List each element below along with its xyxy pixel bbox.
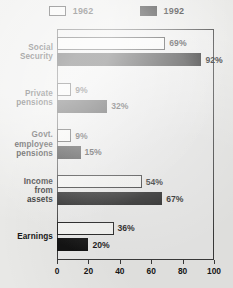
bar-rect [57, 238, 88, 251]
bar-1962: 9% [57, 83, 88, 96]
legend-label: 1992 [164, 6, 185, 16]
bars-track: 9%32% [57, 75, 214, 121]
chart-legend: 19621992 [0, 6, 233, 16]
category-label-line: assets [0, 195, 53, 204]
bar-value-label: 9% [75, 85, 87, 95]
legend-label: 1962 [73, 6, 94, 16]
bar-value-label: 15% [85, 147, 102, 157]
bar-1992: 20% [57, 238, 110, 251]
category-label-line: Earnings [0, 232, 53, 241]
bar-rect [57, 100, 107, 113]
bar-group-earnings: Earnings36%20% [0, 214, 233, 260]
category-label: Earnings [0, 232, 57, 241]
bar-1962: 36% [57, 222, 135, 235]
legend-entry-1962: 1962 [49, 6, 94, 16]
category-label: Govt.employeepensions [0, 130, 57, 158]
bar-rect [57, 192, 162, 205]
bar-value-label: 69% [169, 38, 186, 48]
x-axis-tick [214, 260, 215, 264]
category-label-line: Social [0, 43, 53, 52]
category-label-line: pensions [0, 98, 53, 107]
bars-track: 54%67% [57, 168, 214, 214]
bar-1962: 54% [57, 175, 163, 188]
bar-rect [57, 37, 165, 50]
category-label-line: Income [0, 177, 53, 186]
x-axis-tick-label: 20 [84, 266, 93, 276]
bar-group-social-security: SocialSecurity69%92% [0, 29, 233, 75]
x-axis-tick-label: 80 [178, 266, 187, 276]
category-label: SocialSecurity [0, 43, 57, 62]
legend-swatch-filled [140, 6, 157, 16]
bars-track: 36%20% [57, 214, 214, 260]
x-axis-tick-label: 0 [55, 266, 60, 276]
bar-1962: 69% [57, 37, 187, 50]
x-axis-tick [120, 260, 121, 264]
bar-group-govt-employee-pensions: Govt.employeepensions9%15% [0, 121, 233, 167]
bar-rect [57, 175, 142, 188]
bar-value-label: 67% [166, 194, 183, 204]
bar-1962: 9% [57, 129, 88, 142]
bar-value-label: 54% [146, 177, 163, 187]
bar-group-private-pensions: Privatepensions9%32% [0, 75, 233, 121]
x-axis-tick [88, 260, 89, 264]
bar-1992: 92% [57, 53, 223, 66]
bar-rect [57, 146, 81, 159]
bar-value-label: 36% [118, 223, 135, 233]
bar-group-income-from-assets: Incomefromassets54%67% [0, 168, 233, 214]
x-axis-tick-label: 100 [207, 266, 221, 276]
bar-1992: 67% [57, 192, 183, 205]
x-axis-tick [151, 260, 152, 264]
x-axis-tick [57, 260, 58, 264]
x-axis-tick-label: 60 [147, 266, 156, 276]
category-label-line: from [0, 186, 53, 195]
bar-value-label: 92% [205, 55, 222, 65]
x-axis: 020406080100 [57, 260, 214, 286]
legend-entry-1992: 1992 [140, 6, 185, 16]
bars-track: 69%92% [57, 29, 214, 75]
bar-1992: 32% [57, 100, 128, 113]
bar-value-label: 32% [111, 101, 128, 111]
legend-swatch-open [49, 6, 66, 16]
category-label-line: Govt. [0, 130, 53, 139]
bar-rect [57, 222, 114, 235]
bar-value-label: 9% [75, 131, 87, 141]
bar-rect [57, 53, 201, 66]
category-label: Incomefromassets [0, 177, 57, 205]
bar-1992: 15% [57, 146, 102, 159]
category-label-line: Private [0, 89, 53, 98]
bar-rect [57, 129, 71, 142]
bar-rows-container: SocialSecurity69%92%Privatepensions9%32%… [0, 29, 233, 260]
bars-track: 9%15% [57, 121, 214, 167]
bar-value-label: 20% [92, 240, 109, 250]
x-axis-tick-label: 40 [115, 266, 124, 276]
category-label: Privatepensions [0, 89, 57, 108]
x-axis-tick [183, 260, 184, 264]
bar-rect [57, 83, 71, 96]
category-label-line: pensions [0, 149, 53, 158]
category-label-line: Security [0, 52, 53, 61]
category-label-line: employee [0, 140, 53, 149]
